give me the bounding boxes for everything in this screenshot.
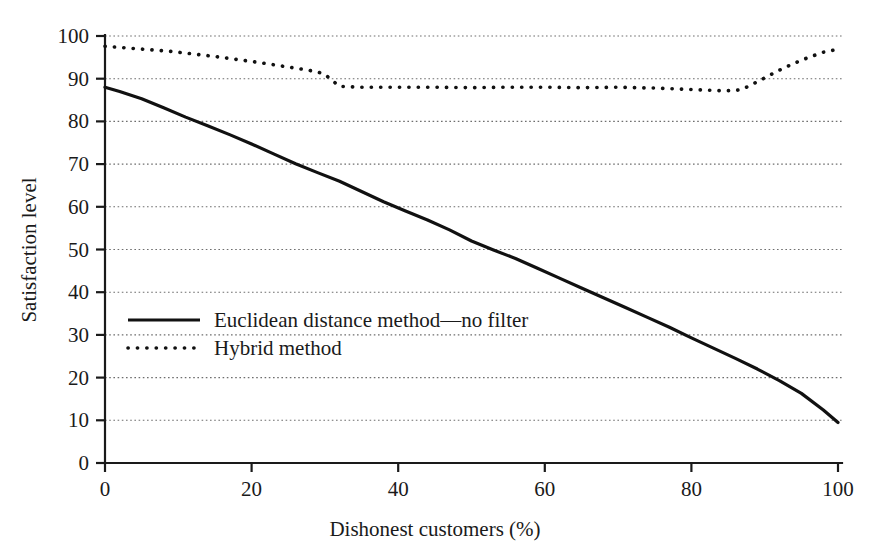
gridlines-group — [105, 36, 842, 420]
y-tick-label: 80 — [68, 109, 89, 133]
chart-figure: 0102030405060708090100 020406080100 Eucl… — [0, 0, 870, 549]
x-axis-title: Dishonest customers (%) — [329, 517, 540, 541]
y-tick-label: 20 — [68, 366, 89, 390]
legend-label-1: Euclidean distance method—no filter — [214, 308, 528, 332]
x-tick-label: 60 — [534, 477, 555, 501]
y-tick-label: 100 — [58, 24, 90, 48]
y-axis-title: Satisfaction level — [17, 177, 41, 322]
chart-legend: Euclidean distance method—no filterHybri… — [128, 308, 528, 360]
x-tick-label: 40 — [388, 477, 409, 501]
y-tick-group — [96, 36, 105, 463]
y-tick-label: 60 — [68, 195, 89, 219]
y-tick-label: 10 — [68, 408, 89, 432]
legend-label-2: Hybrid method — [214, 336, 342, 360]
series-line-1 — [105, 87, 838, 422]
x-tick-group — [105, 463, 838, 472]
series-line-2 — [105, 46, 838, 90]
y-tick-label: 50 — [68, 238, 89, 262]
x-tick-label: 20 — [241, 477, 262, 501]
chart-canvas: 0102030405060708090100 020406080100 Eucl… — [0, 0, 870, 549]
x-tick-label: 80 — [681, 477, 702, 501]
x-tick-label-group: 020406080100 — [100, 477, 854, 501]
y-tick-label: 30 — [68, 323, 89, 347]
y-tick-label: 0 — [79, 451, 90, 475]
y-tick-label: 70 — [68, 152, 89, 176]
y-tick-label: 40 — [68, 280, 89, 304]
x-tick-label: 0 — [100, 477, 111, 501]
y-tick-label-group: 0102030405060708090100 — [58, 24, 90, 475]
data-series-group — [105, 46, 838, 422]
y-tick-label: 90 — [68, 67, 89, 91]
x-tick-label: 100 — [822, 477, 854, 501]
